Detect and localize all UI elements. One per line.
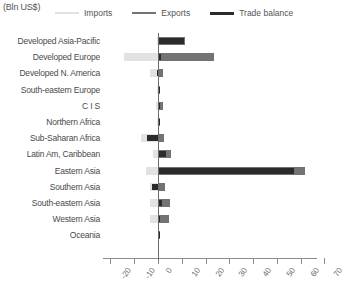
- chart-row: [103, 211, 317, 227]
- units-label: (Bln US$): [3, 2, 40, 12]
- bar-exports: [158, 183, 165, 191]
- bar-balance: [158, 168, 294, 174]
- category-label: South-eastern Europe: [0, 82, 103, 98]
- zero-axis-line: [158, 33, 159, 260]
- category-label: Developed Europe: [0, 49, 103, 65]
- legend-label-trade-balance: Trade balance: [239, 8, 293, 18]
- chart-row: [103, 33, 317, 49]
- chart-legend: Imports Exports Trade balance: [55, 8, 293, 18]
- axis-tick: [229, 258, 230, 264]
- legend-item-trade-balance: Trade balance: [210, 8, 293, 18]
- category-label: C I S: [0, 98, 103, 114]
- bar-imports: [146, 167, 158, 175]
- axis-tick: [134, 258, 135, 264]
- legend-item-imports: Imports: [55, 8, 112, 18]
- category-label: Oceania: [0, 227, 103, 243]
- axis-tick: [206, 258, 207, 264]
- bar-balance: [158, 38, 184, 44]
- category-label: Developed Asia-Pacific: [0, 33, 103, 49]
- chart-row: [103, 146, 317, 162]
- chart-row: [103, 65, 317, 81]
- axis-tick: [182, 258, 183, 264]
- plot-area: [103, 33, 317, 260]
- chart-row: [103, 98, 317, 114]
- axis-tick-label: 70: [332, 266, 344, 278]
- legend-label-imports: Imports: [84, 8, 112, 18]
- legend-swatch-trade-balance: [210, 12, 234, 15]
- legend-swatch-exports: [132, 12, 156, 14]
- category-label: Eastern Asia: [0, 163, 103, 179]
- chart-row: [103, 195, 317, 211]
- chart-row: [103, 163, 317, 179]
- bar-exports: [158, 53, 214, 61]
- axis-tick: [301, 258, 302, 264]
- legend-label-exports: Exports: [161, 8, 190, 18]
- category-label: Western Asia: [0, 211, 103, 227]
- bar-imports: [150, 199, 158, 207]
- chart-row: [103, 179, 317, 195]
- category-label: Southern Asia: [0, 179, 103, 195]
- category-label: Latin Am, Caribbean: [0, 146, 103, 162]
- axis-tick-label: 10: [190, 266, 202, 278]
- axis-tick-label: 20: [213, 266, 225, 278]
- category-label: South-eastern Asia: [0, 195, 103, 211]
- axis-tick: [110, 258, 111, 264]
- category-label: Sub-Saharan Africa: [0, 130, 103, 146]
- bar-balance: [147, 135, 158, 141]
- legend-swatch-imports: [55, 12, 79, 14]
- axis-tick: [324, 258, 325, 264]
- chart-row: [103, 49, 317, 65]
- axis-tick-label: 40: [261, 266, 273, 278]
- chart-row: [103, 227, 317, 243]
- axis-tick-label: -20: [119, 266, 133, 281]
- bar-balance: [158, 151, 166, 157]
- category-axis-labels: Developed Asia-PacificDeveloped EuropeDe…: [0, 33, 103, 243]
- axis-tick-label: -10: [143, 266, 157, 281]
- legend-item-exports: Exports: [132, 8, 190, 18]
- category-label: Developed N. America: [0, 65, 103, 81]
- chart-row: [103, 114, 317, 130]
- category-label: Northern Africa: [0, 114, 103, 130]
- axis-tick: [253, 258, 254, 264]
- chart-row: [103, 130, 317, 146]
- axis-tick-label: 60: [308, 266, 320, 278]
- bar-imports: [124, 53, 158, 61]
- axis-tick-label: 30: [237, 266, 249, 278]
- axis-tick-label: 50: [285, 266, 297, 278]
- axis-tick: [277, 258, 278, 264]
- bar-imports: [150, 215, 158, 223]
- chart-row: [103, 82, 317, 98]
- axis-tick-label: 0: [164, 266, 174, 275]
